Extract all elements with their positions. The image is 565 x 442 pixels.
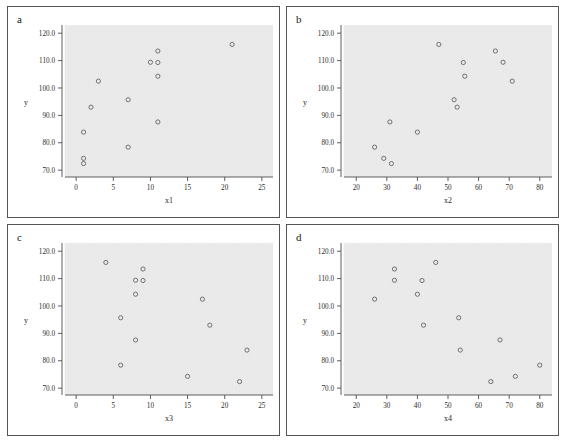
x-tick-label: 80 [536, 184, 544, 192]
x-tick-label: 15 [184, 402, 192, 410]
y-axis-title: y [24, 98, 28, 107]
x-tick-label: 70 [506, 184, 514, 192]
y-tick-label: 120.0 [39, 248, 56, 256]
y-axis-title: y [303, 98, 307, 107]
panel-c: c 051015202570.080.090.0100.0110.0120.0x… [7, 224, 280, 436]
x-tick-label: 20 [353, 184, 361, 192]
panel-a-plot: 051015202570.080.090.0100.0110.0120.0x1y [8, 7, 281, 219]
y-tick-label: 100.0 [39, 303, 56, 311]
x-tick-label: 20 [353, 402, 361, 410]
x-tick-label: 0 [74, 184, 78, 192]
y-tick-label: 90.0 [321, 112, 334, 120]
x-axis-title: x2 [444, 196, 452, 205]
panel-d-plot: 2030405060708070.080.090.0100.0110.0120.… [287, 225, 560, 437]
x-tick-label: 70 [506, 402, 514, 410]
panel-d: d 2030405060708070.080.090.0100.0110.012… [286, 224, 559, 436]
x-tick-label: 20 [221, 184, 229, 192]
y-tick-label: 90.0 [42, 112, 55, 120]
x-axis-title: x1 [165, 196, 173, 205]
x-tick-label: 60 [475, 402, 483, 410]
panel-b-plot: 2030405060708070.080.090.0100.0110.0120.… [287, 7, 560, 219]
x-tick-label: 50 [444, 184, 452, 192]
y-tick-label: 100.0 [318, 85, 335, 93]
y-tick-label: 110.0 [39, 275, 55, 283]
x-tick-label: 50 [444, 402, 452, 410]
x-tick-label: 40 [414, 402, 422, 410]
y-tick-label: 70.0 [42, 385, 55, 393]
x-tick-label: 25 [258, 402, 266, 410]
x-axis-title: x4 [444, 414, 452, 423]
x-tick-label: 40 [414, 184, 422, 192]
y-tick-label: 70.0 [321, 385, 334, 393]
x-tick-label: 25 [258, 184, 266, 192]
y-tick-label: 70.0 [321, 167, 334, 175]
x-tick-label: 15 [184, 184, 192, 192]
y-tick-label: 110.0 [318, 57, 334, 65]
y-tick-label: 90.0 [42, 330, 55, 338]
x-tick-label: 5 [111, 184, 115, 192]
x-tick-label: 20 [221, 402, 229, 410]
x-tick-label: 5 [111, 402, 115, 410]
y-tick-label: 80.0 [321, 139, 334, 147]
y-tick-label: 120.0 [318, 30, 335, 38]
y-tick-label: 120.0 [39, 30, 56, 38]
y-tick-label: 100.0 [39, 85, 56, 93]
x-axis-title: x3 [165, 414, 173, 423]
y-tick-label: 120.0 [318, 248, 335, 256]
x-tick-label: 60 [475, 184, 483, 192]
x-tick-label: 30 [383, 402, 391, 410]
y-tick-label: 110.0 [39, 57, 55, 65]
y-tick-label: 80.0 [42, 139, 55, 147]
x-tick-label: 30 [383, 184, 391, 192]
x-tick-label: 0 [74, 402, 78, 410]
y-tick-label: 100.0 [318, 303, 335, 311]
x-tick-label: 10 [147, 184, 155, 192]
y-axis-title: y [303, 316, 307, 325]
panel-b: b 2030405060708070.080.090.0100.0110.012… [286, 6, 559, 218]
x-tick-label: 10 [147, 402, 155, 410]
y-tick-label: 80.0 [321, 357, 334, 365]
y-tick-label: 110.0 [318, 275, 334, 283]
y-tick-label: 80.0 [42, 357, 55, 365]
y-tick-label: 70.0 [42, 167, 55, 175]
panel-a: a 051015202570.080.090.0100.0110.0120.0x… [7, 6, 280, 218]
scatter-plot-matrix-figure: a 051015202570.080.090.0100.0110.0120.0x… [0, 0, 565, 442]
y-tick-label: 90.0 [321, 330, 334, 338]
panel-c-plot: 051015202570.080.090.0100.0110.0120.0x3y [8, 225, 281, 437]
x-tick-label: 80 [536, 402, 544, 410]
y-axis-title: y [24, 316, 28, 325]
